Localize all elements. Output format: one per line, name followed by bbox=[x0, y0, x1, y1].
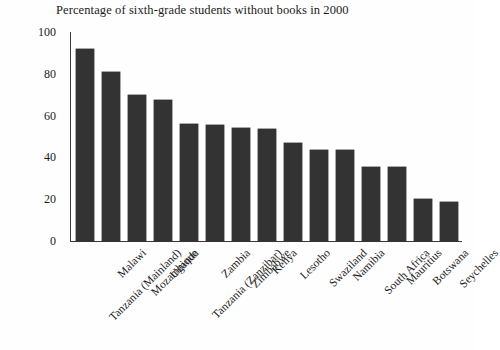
bar[interactable] bbox=[206, 125, 224, 241]
bar[interactable] bbox=[310, 150, 328, 241]
bar-slot bbox=[410, 32, 436, 241]
bar-series bbox=[72, 32, 462, 241]
x-axis-tick-labels: Tanzania (Mainland)MalawiMozambiqueUgand… bbox=[72, 243, 464, 343]
bar-slot bbox=[332, 32, 358, 241]
x-tick-label: Malawi bbox=[115, 247, 148, 280]
bar-slot bbox=[254, 32, 280, 241]
bar[interactable] bbox=[284, 143, 302, 241]
y-tick-label: 80 bbox=[44, 66, 56, 81]
bar[interactable] bbox=[336, 150, 354, 241]
bar[interactable] bbox=[128, 95, 146, 241]
bar[interactable] bbox=[154, 100, 172, 241]
x-tick-label-text: Malawi bbox=[115, 247, 148, 280]
bar-slot bbox=[280, 32, 306, 241]
bar[interactable] bbox=[440, 202, 458, 241]
bar-slot bbox=[384, 32, 410, 241]
bar[interactable] bbox=[362, 167, 380, 241]
bar-slot bbox=[202, 32, 228, 241]
y-tick-label: 100 bbox=[38, 25, 56, 40]
bar-slot bbox=[306, 32, 332, 241]
bar-slot bbox=[176, 32, 202, 241]
y-tick-label: 20 bbox=[44, 192, 56, 207]
bar-slot bbox=[436, 32, 462, 241]
bar[interactable] bbox=[258, 129, 276, 241]
bar-slot bbox=[98, 32, 124, 241]
bar[interactable] bbox=[76, 49, 94, 241]
y-tick-label: 0 bbox=[50, 234, 56, 249]
bar[interactable] bbox=[102, 72, 120, 241]
chart-title: Percentage of sixth-grade students witho… bbox=[56, 3, 349, 18]
bar[interactable] bbox=[232, 128, 250, 241]
x-tick-label-text: Lesotho bbox=[297, 247, 332, 282]
y-axis-tick-labels: 020406080100 bbox=[0, 32, 66, 241]
bar-slot bbox=[124, 32, 150, 241]
y-tick-label: 40 bbox=[44, 150, 56, 165]
bar-slot bbox=[72, 32, 98, 241]
bar[interactable] bbox=[180, 124, 198, 241]
x-tick-label: Lesotho bbox=[297, 247, 332, 282]
bar[interactable] bbox=[414, 199, 432, 241]
bar-slot bbox=[228, 32, 254, 241]
plot-area bbox=[72, 32, 462, 241]
bar-slot bbox=[358, 32, 384, 241]
y-tick-label: 60 bbox=[44, 108, 56, 123]
bar-slot bbox=[150, 32, 176, 241]
bar[interactable] bbox=[388, 167, 406, 241]
